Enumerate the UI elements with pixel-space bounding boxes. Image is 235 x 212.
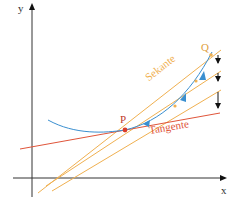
point-q-dot: [209, 53, 213, 57]
x-axis-label: x: [221, 185, 227, 196]
point-p-dot: [123, 128, 128, 133]
diagram-canvas: [0, 0, 235, 212]
point-p-label: P: [120, 114, 126, 125]
y-axis: [29, 3, 35, 197]
secant-lines: [38, 50, 221, 193]
x-axis: [13, 175, 227, 181]
y-axis-label: y: [18, 3, 24, 14]
point-q-label: Q: [201, 42, 209, 53]
